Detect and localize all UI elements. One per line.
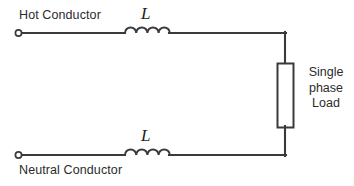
load-box — [278, 64, 294, 128]
load-label-line-2: phase — [299, 81, 353, 97]
terminal-hot-icon — [15, 30, 21, 36]
inductor-bottom-label: L — [141, 126, 150, 146]
load-label: Single phase Load — [299, 65, 353, 112]
inductor-bottom-coil — [125, 149, 170, 155]
neutral-conductor-label: Neutral Conductor — [19, 163, 122, 177]
hot-conductor-label: Hot Conductor — [19, 8, 101, 22]
circuit-diagram-canvas: Hot Conductor L L Neutral Conductor Sing… — [0, 0, 354, 186]
load-label-line-1: Single — [299, 65, 353, 81]
load-label-line-3: Load — [299, 96, 353, 112]
inductor-top-label: L — [141, 4, 150, 24]
inductor-top-coil — [125, 27, 170, 33]
terminal-neutral-icon — [15, 152, 21, 158]
